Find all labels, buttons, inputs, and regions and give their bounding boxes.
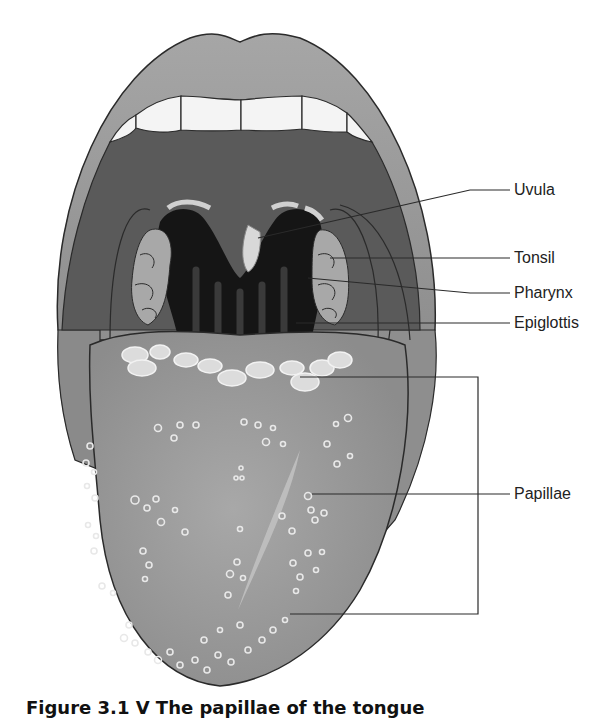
label-tonsil: Tonsil (514, 250, 555, 266)
label-pharynx: Pharynx (514, 285, 573, 301)
label-papillae: Papillae (514, 486, 571, 502)
tongue (90, 332, 408, 686)
label-epiglottis: Epiglottis (514, 315, 579, 331)
label-uvula: Uvula (514, 182, 555, 198)
figure-caption: Figure 3.1 V The papillae of the tongue (26, 697, 425, 718)
